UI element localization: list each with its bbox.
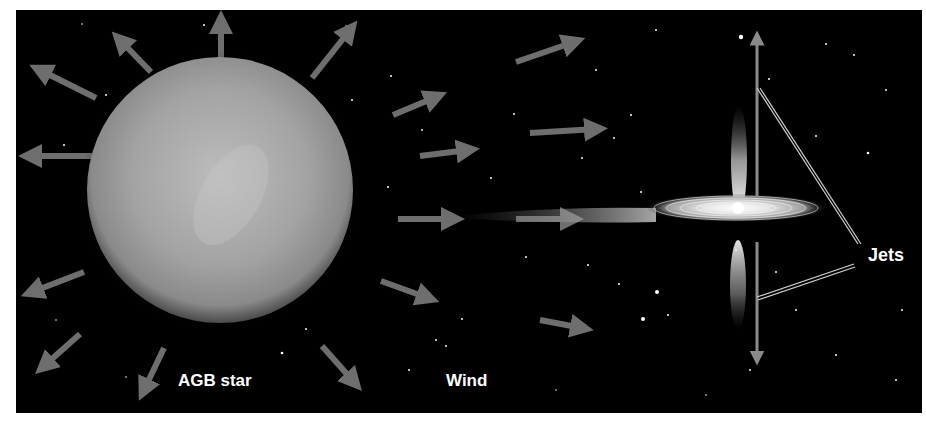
illustration <box>16 10 922 413</box>
callout-lines <box>757 88 861 300</box>
wind-stream <box>456 208 656 223</box>
agb-star-label: AGB star <box>178 371 252 391</box>
wind-label: Wind <box>446 371 487 391</box>
diagram-panel: AGB star Wind Jets <box>16 10 922 413</box>
jets-label: Jets <box>868 245 904 266</box>
lower-jet <box>730 240 746 330</box>
